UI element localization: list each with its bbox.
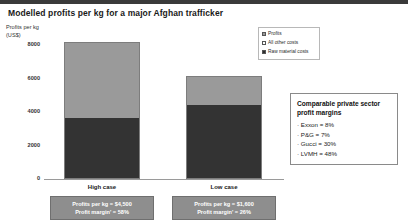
y-axis-tick: 8000 (28, 41, 40, 47)
bar-segment-profits (65, 43, 139, 118)
y-axis-tick: 4000 (28, 108, 40, 114)
y-axis-tick: 6000 (28, 75, 40, 81)
comparable-margins-panel: Comparable private sector profit margins… (290, 93, 398, 165)
slide-top-bar (0, 0, 408, 4)
legend-item-label: Profits (268, 31, 282, 37)
profits-swatch-icon (262, 32, 266, 36)
bar-segment-raw-material-costs (65, 118, 139, 178)
comparable-margin-item: · LVMH = 48% (297, 149, 391, 159)
callout-profits-per-kg: Profits per kg = $1,600 (173, 200, 275, 208)
all-other-costs-swatch-icon (262, 41, 266, 45)
chart-legend: Profits All other costs Raw material cos… (258, 27, 320, 60)
comparable-margin-item: · Exxon = 8% (297, 120, 391, 130)
legend-item-all-other-costs[interactable]: All other costs (262, 40, 316, 46)
y-axis-title: Profits per kg (US$) (6, 24, 52, 39)
page-title: Modelled profits per kg for a major Afgh… (8, 8, 223, 18)
y-axis-tick: 2000 (28, 142, 40, 148)
callout-profit-margin: Profit margin' = 26% (173, 208, 275, 216)
comparable-margin-item: · Gucci = 30% (297, 139, 391, 149)
bar-high-case[interactable] (64, 42, 140, 179)
legend-item-label: Raw material costs (268, 49, 309, 55)
y-axis-tick: 0 (37, 175, 40, 181)
legend-item-label: All other costs (268, 40, 298, 46)
callout-profit-margin: Profit margin' = 58% (51, 208, 153, 216)
bar-segment-raw-material-costs (187, 105, 261, 178)
bar-low-case[interactable] (186, 76, 262, 179)
legend-item-raw-material-costs[interactable]: Raw material costs (262, 49, 316, 55)
callout-low-case: Profits per kg = $1,600 Profit margin' =… (172, 196, 276, 220)
x-axis-line (44, 179, 284, 180)
x-axis-category-label: Low case (186, 184, 262, 190)
bar-segment-profits (187, 77, 261, 105)
comparable-margins-title: Comparable private sector profit margins (297, 99, 391, 117)
chart-plot-area: 8000 6000 4000 2000 0 High case Low case… (44, 44, 284, 180)
legend-item-profits[interactable]: Profits (262, 31, 316, 37)
callout-profits-per-kg: Profits per kg = $4,500 (51, 200, 153, 208)
comparable-margin-item: · P&G = 7% (297, 130, 391, 140)
raw-material-costs-swatch-icon (262, 50, 266, 54)
x-axis-category-label: High case (64, 184, 140, 190)
callout-high-case: Profits per kg = $4,500 Profit margin' =… (50, 196, 154, 220)
